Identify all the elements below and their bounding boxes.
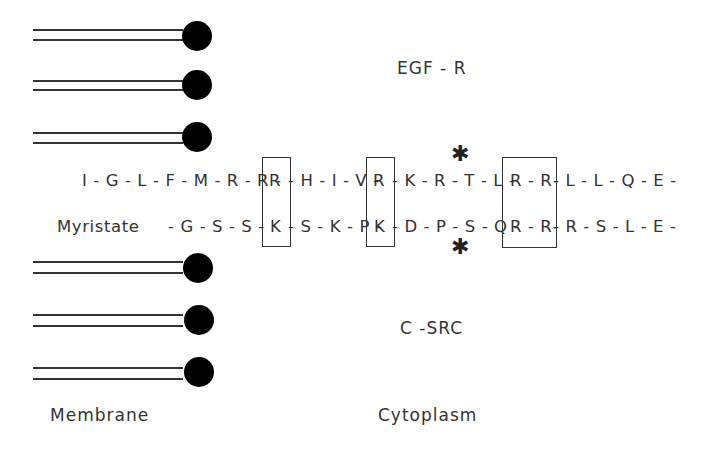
c-src-seq-segment-1: - G - S - S - xyxy=(168,217,265,236)
lipid-bottom-2 xyxy=(33,305,213,339)
egf-r-seq-segment-2: - H - I - V - xyxy=(288,171,380,190)
egf-r-label: EGF - R xyxy=(397,58,466,78)
lipid-head-icon xyxy=(184,305,214,335)
cytoplasm-label: Cytoplasm xyxy=(378,405,477,425)
membrane-label: Membrane xyxy=(50,405,149,425)
phosphorylation-asterisk-icon-bottom: ✱ xyxy=(451,236,469,258)
lipid-head-icon xyxy=(182,122,212,152)
lipid-tail xyxy=(33,142,183,144)
lipid-head-icon xyxy=(184,357,214,387)
egf-r-seq-segment-1: I - G - L - F - M - R - R - xyxy=(82,171,282,190)
lipid-bottom-3 xyxy=(33,357,213,391)
egf-r-seq-box2-residue: R xyxy=(373,171,385,190)
lipid-bottom-1 xyxy=(33,253,213,287)
lipid-tail xyxy=(33,29,183,31)
lipid-tail xyxy=(33,378,183,380)
lipid-head-icon xyxy=(182,21,212,51)
egf-r-seq-segment-4: - L - L - Q - E - xyxy=(553,171,677,190)
lipid-tail xyxy=(33,367,183,369)
lipid-head-icon xyxy=(182,70,212,100)
c-src-seq-segment-4: - R - S - L - E - xyxy=(553,217,676,236)
lipid-top-2 xyxy=(33,71,213,105)
egf-r-seq-box3-residues: R - R xyxy=(510,171,552,190)
lipid-head-icon xyxy=(183,253,213,283)
c-src-seq-box2-residue: K xyxy=(374,217,385,236)
lipid-top-1 xyxy=(33,22,213,56)
phosphorylation-asterisk-icon-top: ✱ xyxy=(451,143,469,165)
lipid-tail xyxy=(33,39,183,41)
c-src-seq-segment-3: - D - P - S - Q - xyxy=(392,217,520,236)
lipid-tail xyxy=(33,80,183,82)
lipid-tail xyxy=(33,314,183,316)
myristate-label: Myristate xyxy=(57,217,140,236)
lipid-top-3 xyxy=(33,122,213,156)
egf-r-seq-box1-residue: R xyxy=(269,171,281,190)
lipid-tail xyxy=(33,132,183,134)
c-src-seq-box3-residues: R - R xyxy=(510,217,552,236)
egf-r-seq-segment-3: - K - R - T - L - xyxy=(392,171,515,190)
lipid-tail xyxy=(33,325,183,327)
lipid-tail xyxy=(33,272,183,274)
c-src-seq-segment-2: - S - K - P - xyxy=(288,217,382,236)
c-src-seq-box1-residue: K xyxy=(270,217,281,236)
lipid-tail xyxy=(33,89,183,91)
lipid-tail xyxy=(33,261,183,263)
c-src-label: C -SRC xyxy=(400,318,463,338)
